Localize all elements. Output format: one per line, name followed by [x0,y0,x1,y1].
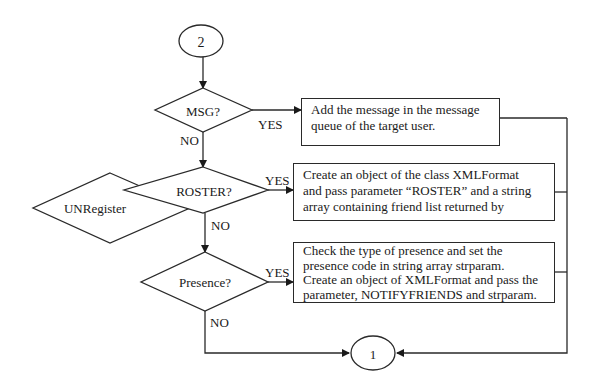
roster-yes-label: YES [265,173,290,188]
process-line: array containing friend list returned by [303,199,554,215]
msg-decision-label: MSG? [186,104,220,119]
start-connector-label: 2 [198,35,205,50]
process-line: Add the message in the message [311,102,499,118]
process-line: presence code in string array strparam. [303,259,554,274]
process-line: parameter, NOTIFYFRIENDS and strparam. [303,288,554,303]
process-line: and pass parameter “ROSTER” and a string [303,183,554,199]
process-line: queue of the target user. [311,118,499,134]
presence-yes-label: YES [265,265,290,280]
roster-decision-label: ROSTER? [176,184,232,199]
roster-process-box: Create an object of the class XMLFormat … [293,163,555,221]
presence-no-label: NO [210,315,229,330]
process-line: Create an object of XMLFormat and pass t… [303,273,554,288]
msg-no-label: NO [180,133,199,148]
msg-yes-label: YES [258,117,283,132]
roster-no-label: NO [211,218,230,233]
presence-decision-label: Presence? [179,275,231,290]
process-line: Check the type of presence and set the [303,244,554,259]
unregister-decision-label: UNRegister [64,201,126,216]
presence-process-box: Check the type of presence and set the p… [293,242,555,303]
process-line: Create an object of the class XMLFormat [303,167,554,183]
add-message-process-box: Add the message in the message queue of … [301,98,500,146]
end-connector-label: 1 [370,347,377,362]
